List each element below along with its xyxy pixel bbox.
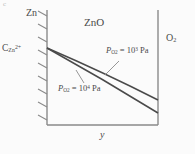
left-axis-tick xyxy=(38,37,47,42)
curve-label-p-o2-1e4-equals: = 10 xyxy=(70,83,88,93)
phase-label-o2-subscript: 2 xyxy=(173,36,176,43)
leader-line-p-o2-1e3 xyxy=(105,61,119,75)
corner-artifact-mark: c xyxy=(3,1,6,8)
curve-p-o2-1e4 xyxy=(47,48,158,113)
zno-concentration-profile-figure: c Zn ZnO O2 CZn2+ PO2 = 103 Pa PO2 = 104… xyxy=(0,0,195,154)
left-axis-tick-group xyxy=(38,11,47,120)
curve-label-p-o2-1e4: PO2 = 104 Pa xyxy=(58,84,100,93)
curve-label-p-o2-1e3-unit: Pa xyxy=(138,45,149,55)
left-axis-tick xyxy=(38,24,47,29)
curve-label-p-o2-1e4-unit: Pa xyxy=(90,83,101,93)
leader-line-p-o2-1e4 xyxy=(76,70,84,83)
phase-label-o2: O2 xyxy=(166,33,176,44)
concentration-label-superscript: 2+ xyxy=(15,44,21,50)
left-axis-tick xyxy=(38,50,47,55)
left-axis-tick xyxy=(38,11,47,16)
left-axis-tick xyxy=(38,89,47,94)
concentration-axis-label: CZn2+ xyxy=(2,44,21,54)
left-axis-tick xyxy=(38,63,47,68)
curve-label-p-o2-1e3: PO2 = 103 Pa xyxy=(106,46,148,55)
left-axis-tick xyxy=(38,102,47,107)
x-axis-label: y xyxy=(100,130,104,140)
left-axis-tick xyxy=(38,115,47,120)
curve-label-p-o2-1e3-equals: = 10 xyxy=(118,45,136,55)
left-axis-tick xyxy=(38,76,47,81)
phase-label-zno: ZnO xyxy=(84,17,104,28)
phase-label-zn: Zn xyxy=(26,8,37,18)
